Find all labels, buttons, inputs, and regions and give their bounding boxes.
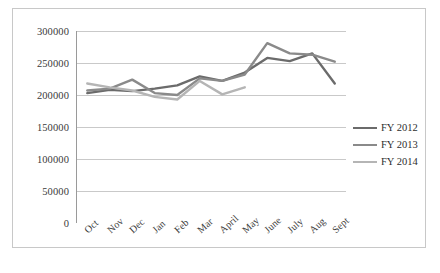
plot-svg	[76, 31, 346, 223]
y-axis-tick-label: 0	[64, 218, 69, 229]
chart-frame: 050000100000150000200000250000300000 Oct…	[12, 8, 426, 248]
legend-color-swatch	[353, 144, 377, 146]
legend-label: FY 2013	[381, 139, 418, 150]
y-axis-tick-label: 150000	[37, 122, 69, 133]
legend-color-swatch	[353, 161, 377, 163]
chart-figure: 050000100000150000200000250000300000 Oct…	[0, 0, 440, 273]
legend-item: FY 2012	[353, 119, 433, 136]
y-axis-tick-label: 250000	[37, 58, 69, 69]
legend-item: FY 2014	[353, 153, 433, 170]
legend-color-swatch	[353, 127, 377, 129]
plot-area	[76, 31, 346, 223]
y-axis-labels: 050000100000150000200000250000300000	[13, 31, 73, 223]
x-axis-labels: OctNovDecJanFebMarAprilMayJuneJulyAugSep…	[76, 225, 346, 265]
legend-label: FY 2014	[381, 156, 418, 167]
y-axis-tick-label: 300000	[37, 26, 69, 37]
chart-legend: FY 2012FY 2013FY 2014	[353, 119, 433, 170]
legend-item: FY 2013	[353, 136, 433, 153]
y-axis-tick-label: 50000	[42, 186, 69, 197]
legend-label: FY 2012	[381, 122, 418, 133]
y-axis-tick-label: 200000	[37, 90, 69, 101]
y-axis-tick-label: 100000	[37, 154, 69, 165]
